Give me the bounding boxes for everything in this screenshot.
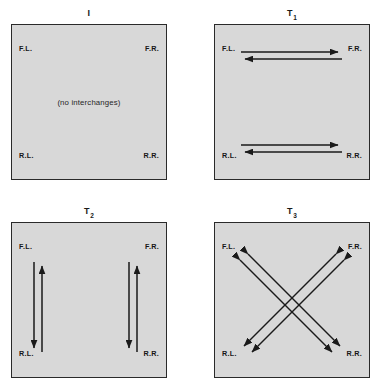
panel-t1-title: T1: [214, 8, 370, 22]
panel-t1-title-sub: 1: [293, 14, 297, 21]
corner-label-rear-right: R.R.: [346, 151, 362, 160]
corner-label-front-right: F.R.: [348, 44, 362, 53]
panel-identity-title: I: [11, 8, 167, 19]
corner-label-rear-right: R.R.: [143, 349, 159, 358]
panel-t2: T2 F.L. F.R. R.L. R.R.: [11, 222, 167, 378]
corner-label-front-left: F.L.: [19, 44, 32, 53]
corner-label-front-right: F.R.: [145, 242, 159, 251]
corner-label-front-left: F.L.: [19, 242, 32, 251]
panel-t1: T1 F.L. F.R. R.L. R.R.: [214, 24, 370, 180]
panel-t3: T3 F.L. F.R. R.L. R.R.: [214, 222, 370, 378]
corner-label-rear-left: R.L.: [19, 349, 34, 358]
corner-label-rear-left: R.L.: [222, 349, 237, 358]
corner-label-front-right: F.R.: [348, 242, 362, 251]
corner-label-rear-right: R.R.: [143, 151, 159, 160]
panel-t3-title: T3: [214, 206, 370, 220]
panel-t2-title: T2: [11, 206, 167, 220]
tire-rotation-figure: I F.L. F.R. R.L. R.R. (no interchanges) …: [0, 0, 390, 386]
panel-identity-title-main: I: [88, 8, 91, 18]
corner-label-front-right: F.R.: [145, 44, 159, 53]
panel-t2-title-sub: 2: [90, 212, 94, 219]
corner-label-front-left: F.L.: [222, 44, 235, 53]
corner-label-rear-right: R.R.: [346, 349, 362, 358]
corner-label-front-left: F.L.: [222, 242, 235, 251]
panel-identity-note: (no interchanges): [11, 98, 167, 107]
corner-label-rear-left: R.L.: [222, 151, 237, 160]
panel-t3-title-sub: 3: [293, 212, 297, 219]
corner-label-rear-left: R.L.: [19, 151, 34, 160]
panel-identity: I F.L. F.R. R.L. R.R. (no interchanges): [11, 24, 167, 180]
